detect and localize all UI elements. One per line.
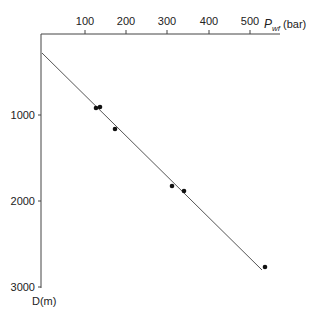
y-axis-label: D(m) — [32, 295, 56, 307]
y-tick-label: 2000 — [11, 195, 35, 207]
data-point — [98, 105, 103, 110]
y-ticks: 1000 2000 3000 — [11, 109, 41, 293]
data-point — [94, 106, 99, 111]
data-point — [263, 265, 268, 270]
svg-text:wf: wf — [272, 24, 281, 33]
x-tick-label: 400 — [200, 15, 218, 27]
x-axis-label: P wf (bar) — [264, 17, 306, 33]
x-tick-label: 100 — [76, 15, 94, 27]
chart: 100 200 300 400 500 P wf (bar) 1000 2000… — [0, 0, 310, 325]
x-tick-label: 500 — [241, 15, 259, 27]
y-tick-label: 1000 — [11, 109, 35, 121]
x-ticks: 100 200 300 400 500 — [76, 15, 259, 34]
svg-text:(bar): (bar) — [283, 18, 306, 30]
y-tick-label: 3000 — [11, 281, 35, 293]
data-point — [170, 184, 175, 189]
data-point — [182, 189, 187, 194]
svg-text:P: P — [264, 17, 272, 31]
x-tick-label: 200 — [117, 15, 135, 27]
data-point — [113, 127, 118, 132]
fit-line — [42, 53, 262, 270]
x-tick-label: 300 — [158, 15, 176, 27]
